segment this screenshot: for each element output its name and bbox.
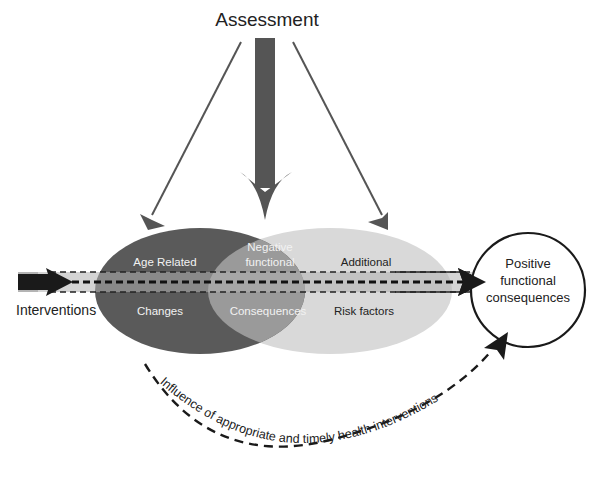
left-arrowhead-icon [140,214,165,230]
assessment-title: Assessment [215,9,319,30]
age-related-label: Age Related [133,256,196,268]
positive-label: Positive [505,256,551,271]
risk-factors-label: Risk factors [334,305,394,317]
functional-label: functional [245,256,294,268]
consequences-outcome-label: consequences [486,290,570,305]
negative-label: Negative [247,241,292,253]
right-arrowhead-icon [368,212,388,230]
changes-label: Changes [137,305,183,317]
functional-outcome-label: functional [500,273,556,288]
interventions-label: Interventions [16,302,96,318]
arc-label-text: Influence of appropriate and timely heal… [157,374,440,446]
additional-label: Additional [341,256,392,268]
diagram-canvas: Assessment Age Related Changes Negative … [0,0,589,496]
arc-label: Influence of appropriate and timely heal… [157,374,440,446]
assessment-arrows [140,38,388,230]
interventions-band [18,272,473,292]
consequences-label: Consequences [230,305,307,317]
